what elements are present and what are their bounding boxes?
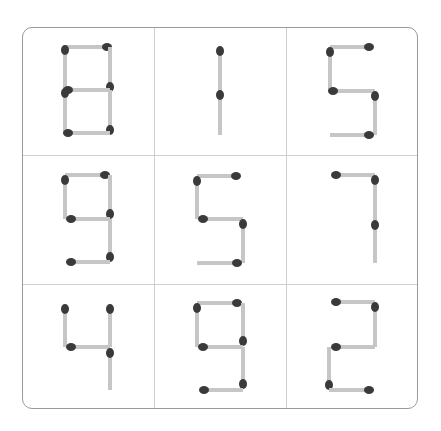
cell-hit-area[interactable]: [286, 284, 418, 409]
cell-hit-area[interactable]: [22, 284, 154, 409]
matchstick-layer: [0, 0, 441, 431]
digit-cell-2-1[interactable]: [154, 284, 286, 409]
cell-hit-area[interactable]: [22, 155, 154, 284]
digit-cell-2-0[interactable]: [22, 284, 154, 409]
digit-cell-0-0[interactable]: [22, 27, 154, 155]
cell-hit-area[interactable]: [286, 155, 418, 284]
cell-hit-area[interactable]: [154, 284, 286, 409]
cell-hit-area[interactable]: [154, 27, 286, 155]
cell-hit-area[interactable]: [286, 27, 418, 155]
digit-cell-2-2[interactable]: [286, 284, 418, 409]
digit-cell-0-1[interactable]: [154, 27, 286, 155]
digit-cell-1-0[interactable]: [22, 155, 154, 284]
digit-cell-1-2[interactable]: [286, 155, 418, 284]
digit-cell-0-2[interactable]: [286, 27, 418, 155]
digit-cell-1-1[interactable]: [154, 155, 286, 284]
cell-hit-area[interactable]: [154, 155, 286, 284]
cell-hit-area[interactable]: [22, 27, 154, 155]
